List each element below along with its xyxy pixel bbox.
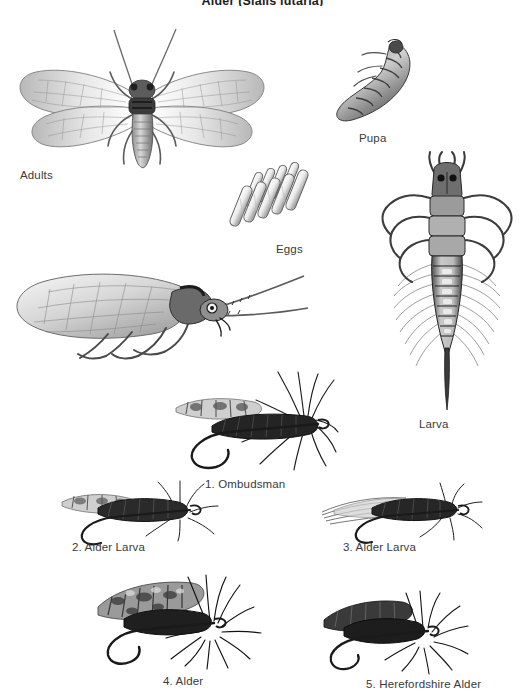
caption-adults: Adults — [20, 169, 53, 181]
fly-pattern-alder-4 — [88, 575, 263, 670]
alderfly-adult-side-view-icon — [12, 258, 317, 363]
caption-fly-5: 5. Herefordshire Alder — [366, 678, 481, 690]
caption-larva: Larva — [419, 418, 449, 430]
alderfly-adult-wings-spread-icon — [14, 28, 270, 176]
caption-fly-4: 4. Alder — [163, 675, 203, 687]
alderfly-pupa-icon — [330, 38, 430, 128]
fly-pattern-herefordshire-alder-5 — [310, 590, 470, 675]
fly-pattern-alder-larva-2 — [58, 480, 218, 542]
caption-pupa: Pupa — [359, 132, 386, 144]
caption-eggs: Eggs — [276, 243, 303, 255]
fly-pattern-ombudsman — [168, 372, 338, 472]
alderfly-egg-cluster-icon — [224, 158, 324, 236]
alderfly-larva-icon — [372, 152, 522, 414]
caption-fly-2: 2. Alder Larva — [72, 541, 145, 553]
plate-title: Alder (Sialis lutaria) — [0, 0, 525, 6]
illustration-plate: Alder (Sialis lutaria) — [0, 0, 525, 697]
fly-pattern-alder-larva-3 — [320, 482, 485, 542]
caption-fly-3: 3. Alder Larva — [343, 541, 416, 553]
